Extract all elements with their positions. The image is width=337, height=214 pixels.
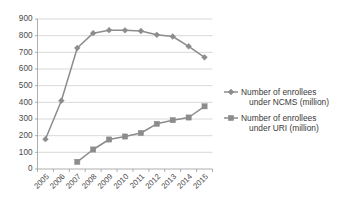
x-axis-tick-label: 2014 [175, 172, 194, 191]
data-point-marker-diamond [58, 98, 64, 104]
x-axis-tick-label: 2010 [112, 172, 131, 191]
x-axis-tick-label: 2008 [80, 172, 99, 191]
x-axis-tick-label: 2015 [191, 172, 210, 191]
legend-label-line-2: under URI (million) [249, 123, 319, 133]
y-axis-tick-label: 900 [19, 14, 33, 23]
series-ncms [43, 27, 208, 142]
y-axis-tick-label: 400 [19, 98, 33, 107]
legend-label-line-1: Number of enrollees [241, 113, 316, 123]
legend-label-line-2: under NCMS (million) [249, 97, 329, 107]
data-point-marker-square [75, 159, 80, 164]
line-chart: 0100200300400500600700800900 20052006200… [0, 0, 337, 214]
series-line [45, 30, 204, 139]
data-point-marker-diamond [106, 27, 112, 33]
x-axis-tick-labels: 2005200620072008200920102011201220132014… [32, 172, 210, 191]
y-axis-tick-labels: 0100200300400500600700800900 [19, 14, 38, 173]
y-axis-tick-label: 600 [19, 64, 33, 73]
y-axis-tick-label: 200 [19, 131, 33, 140]
x-axis-tick-label: 2012 [144, 172, 163, 191]
data-point-marker-square [106, 137, 111, 142]
series-uri [75, 104, 207, 165]
data-point-marker-diamond [138, 28, 144, 34]
data-point-marker-square [186, 115, 191, 120]
data-point-marker-square [122, 134, 127, 139]
chart-legend: Number of enrolleesunder NCMS (million)N… [224, 87, 329, 133]
y-axis-tick-label: 300 [19, 114, 33, 123]
legend-entry-uri[interactable]: Number of enrolleesunder URI (million) [224, 113, 319, 133]
legend-label-line-1: Number of enrollees [241, 87, 316, 97]
x-axis-tick-marks [38, 169, 213, 172]
y-axis-tick-label: 700 [19, 48, 33, 57]
x-axis-tick-label: 2013 [160, 172, 179, 191]
data-point-marker-square [202, 104, 207, 109]
y-axis-tick-label: 100 [19, 148, 33, 157]
x-axis-tick-label: 2006 [48, 172, 67, 191]
data-series [43, 27, 208, 164]
data-point-marker-square [170, 118, 175, 123]
x-axis-tick-label: 2009 [96, 172, 115, 191]
gridlines [38, 19, 213, 152]
legend-entry-ncms[interactable]: Number of enrolleesunder NCMS (million) [224, 87, 329, 107]
data-point-marker-square [154, 121, 159, 126]
y-axis-tick-label: 800 [19, 31, 33, 40]
data-point-marker-diamond [228, 89, 234, 95]
data-point-marker-diamond [154, 32, 160, 38]
y-axis-tick-label: 500 [19, 81, 33, 90]
x-axis-tick-label: 2007 [64, 172, 83, 191]
data-point-marker-diamond [43, 136, 49, 142]
x-axis-tick-label: 2005 [32, 172, 51, 191]
y-axis-tick-label: 0 [28, 164, 33, 173]
data-point-marker-diamond [122, 27, 128, 33]
data-point-marker-square [138, 130, 143, 135]
chart-container: 0100200300400500600700800900 20052006200… [0, 0, 337, 214]
x-axis-tick-label: 2011 [128, 172, 146, 190]
data-point-marker-square [91, 147, 96, 152]
data-point-marker-square [228, 115, 233, 120]
